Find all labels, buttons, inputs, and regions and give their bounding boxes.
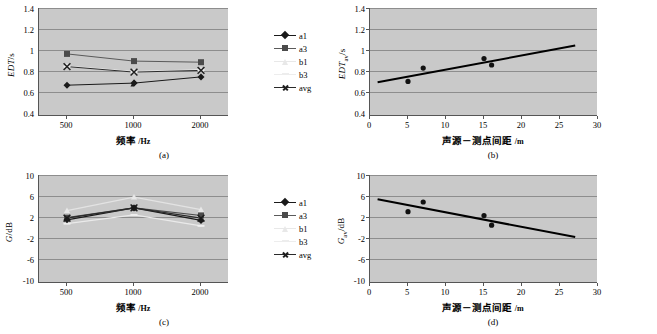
panel-a-ytick: 1.2 xyxy=(10,25,34,35)
panel-b-xtick: 15 xyxy=(468,120,498,130)
panel-a-xtick: 500 xyxy=(46,120,86,130)
legend-item-label: b1 xyxy=(299,224,308,234)
legend-item-a3: a3 xyxy=(274,42,311,55)
panel-c-plot-area xyxy=(38,175,228,283)
panel-d-xtick: 0 xyxy=(354,287,384,297)
legend-item-label: a3 xyxy=(299,211,307,221)
panel-d-ytick: 10 xyxy=(339,171,365,181)
panel-c-ytick: 10 xyxy=(8,171,34,181)
panel-c-ytick: -2 xyxy=(8,234,34,244)
panel-b-xtick: 0 xyxy=(354,120,384,130)
panel-c-ytick: 6 xyxy=(8,192,34,202)
panel-b-ytick: 0.4 xyxy=(341,109,365,119)
legend-item-label: a3 xyxy=(299,44,307,54)
legend-item-a1: a1 xyxy=(274,29,311,42)
panel-b-xtick: 25 xyxy=(544,120,574,130)
panel-d-xtick: 30 xyxy=(582,287,612,297)
panel-d: Gav/dB 10 6 2 -2 -6 -10 xyxy=(329,167,657,334)
panel-d-xtick: 20 xyxy=(506,287,536,297)
panel-b-ytick: 1.4 xyxy=(341,4,365,14)
panel-a-x-axis-title: 频率 /Hz xyxy=(93,133,173,147)
panel-d-ytick: -2 xyxy=(339,234,365,244)
panel-c-legend: a1 a3 b1 b3 xyxy=(274,196,311,261)
panel-a-caption: (a) xyxy=(0,150,328,160)
panel-d-ytick: 6 xyxy=(339,192,365,202)
triangle-marker xyxy=(274,223,296,234)
panel-d-ytick: 2 xyxy=(339,213,365,223)
legend-item-a1: a1 xyxy=(274,196,311,209)
panel-d-xtick: 15 xyxy=(468,287,498,297)
panel-d-ytick: -6 xyxy=(339,255,365,265)
panel-a-ytick: 1.4 xyxy=(10,4,34,14)
dash-marker xyxy=(274,236,296,247)
legend-item-avg: avg xyxy=(274,81,311,94)
panel-d-xtick: 10 xyxy=(430,287,460,297)
diamond-marker xyxy=(274,197,296,208)
panel-d-plot-area xyxy=(369,175,597,283)
panel-b-series-overlay xyxy=(370,8,598,116)
panel-b-ytick: 0.8 xyxy=(341,67,365,77)
legend-item-a3: a3 xyxy=(274,209,311,222)
panel-d-xtick: 5 xyxy=(392,287,422,297)
panel-b-caption: (b) xyxy=(329,150,657,160)
panel-c-xtick: 500 xyxy=(46,287,86,297)
legend-item-b3: b3 xyxy=(274,68,311,81)
panel-c-series-overlay xyxy=(39,175,229,283)
panel-a-xtick: 1000 xyxy=(113,120,153,130)
panel-a-ytick: 0.8 xyxy=(10,67,34,77)
panel-a-ytick: 0.4 xyxy=(10,109,34,119)
panel-c: G/dB 10 6 2 -2 -6 -10 xyxy=(0,167,328,334)
cross-marker xyxy=(274,82,296,93)
panel-b-ytick: 1.2 xyxy=(341,25,365,35)
panel-b-plot-area xyxy=(369,8,597,116)
legend-item-b1: b1 xyxy=(274,222,311,235)
legend-item-label: b3 xyxy=(299,237,308,247)
panel-d-x-axis-title: 声源－测点间距 /m xyxy=(423,300,543,314)
panel-d-ytick: -10 xyxy=(339,276,365,286)
panel-d-caption: (d) xyxy=(329,317,657,327)
panel-a-xtick: 2000 xyxy=(180,120,220,130)
panel-a-ytick: 1 xyxy=(10,46,34,56)
legend-item-label: b1 xyxy=(299,57,308,67)
legend-item-label: b3 xyxy=(299,70,308,80)
triangle-marker xyxy=(274,56,296,67)
panel-b-ytick: 1 xyxy=(341,46,365,56)
legend-item-b3: b3 xyxy=(274,235,311,248)
legend-item-b1: b1 xyxy=(274,55,311,68)
panel-a-ytick: 0.6 xyxy=(10,88,34,98)
panel-b-xtick: 20 xyxy=(506,120,536,130)
dash-marker xyxy=(274,69,296,80)
legend-item-label: avg xyxy=(299,250,311,260)
cross-marker xyxy=(274,249,296,260)
panel-c-xtick: 2000 xyxy=(180,287,220,297)
diamond-marker xyxy=(274,30,296,41)
panel-b-xtick: 30 xyxy=(582,120,612,130)
panel-c-caption: (c) xyxy=(0,317,328,327)
legend-item-label: a1 xyxy=(299,31,307,41)
panel-d-series-overlay xyxy=(370,175,598,283)
panel-b-xtick: 5 xyxy=(392,120,422,130)
panel-d-xtick: 25 xyxy=(544,287,574,297)
panel-a-plot-area xyxy=(38,8,228,116)
panel-a-series-overlay xyxy=(39,8,229,116)
panel-c-ytick: -10 xyxy=(8,276,34,286)
panel-b-x-axis-title: 声源－测点间距 /m xyxy=(423,133,543,147)
panel-b: EDTav/s 1.4 1.2 1 0.8 0.6 0.4 xyxy=(329,0,657,167)
panel-b-xtick: 10 xyxy=(430,120,460,130)
panel-c-ytick: -6 xyxy=(8,255,34,265)
panel-a: EDT/s 1.4 1.2 1 0.8 0.6 0.4 xyxy=(0,0,328,167)
panel-a-legend: a1 a3 b1 b3 xyxy=(274,29,311,94)
panel-c-x-axis-title: 频率 /Hz xyxy=(93,300,173,314)
legend-item-avg: avg xyxy=(274,248,311,261)
panel-b-ytick: 0.6 xyxy=(341,88,365,98)
legend-item-label: avg xyxy=(299,83,311,93)
panel-c-ytick: 2 xyxy=(8,213,34,223)
panel-c-xtick: 1000 xyxy=(113,287,153,297)
legend-item-label: a1 xyxy=(299,198,307,208)
figure-container: EDT/s 1.4 1.2 1 0.8 0.6 0.4 xyxy=(0,0,657,334)
square-marker xyxy=(274,43,296,54)
square-marker xyxy=(274,210,296,221)
